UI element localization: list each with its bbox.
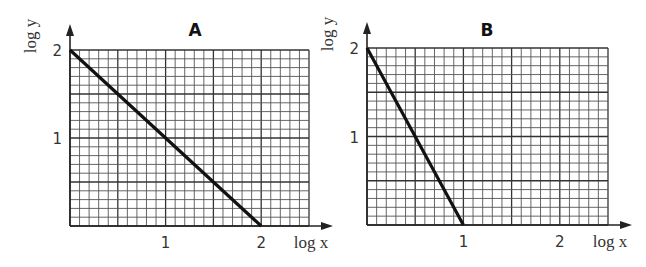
y-tick-label: 1 [349, 129, 359, 147]
grid [367, 48, 608, 225]
y-axis-label: log y [21, 18, 40, 53]
x-tick-label: 2 [555, 233, 565, 251]
y-axis-label: log y [318, 16, 337, 51]
chart-panel-b: B1212log xlog y [318, 16, 632, 251]
chart-title: B [481, 20, 494, 40]
x-axis-arrow-icon [321, 222, 333, 230]
x-axis-label: log x [294, 233, 329, 252]
grid [70, 50, 309, 226]
y-axis-arrow-icon [363, 22, 371, 34]
figure: A1212log xlog y B1212log xlog y [0, 0, 646, 267]
x-tick-label: 2 [256, 234, 266, 252]
y-tick-label: 1 [52, 130, 62, 148]
x-axis-label: log x [593, 232, 628, 251]
chart-panel-a: A1212log xlog y [21, 18, 333, 252]
x-tick-label: 1 [161, 234, 171, 252]
x-axis-arrow-icon [620, 221, 632, 229]
y-tick-label: 2 [349, 40, 359, 58]
x-tick-label: 1 [459, 233, 469, 251]
chart-title: A [188, 20, 202, 40]
y-axis-arrow-icon [66, 24, 74, 36]
y-tick-label: 2 [52, 42, 62, 60]
